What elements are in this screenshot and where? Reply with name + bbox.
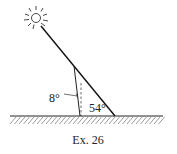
elevation-angle-label: 54° (89, 101, 106, 115)
figure-caption: Ex. 26 (72, 133, 103, 147)
diagram: 8° 54° Ex. 26 (0, 0, 177, 154)
sun-icon (24, 6, 48, 29)
tilted-pole (74, 66, 80, 116)
ground-hatching (10, 117, 165, 124)
angle-pointer (64, 94, 77, 96)
pole-angle-label: 8° (49, 91, 60, 105)
